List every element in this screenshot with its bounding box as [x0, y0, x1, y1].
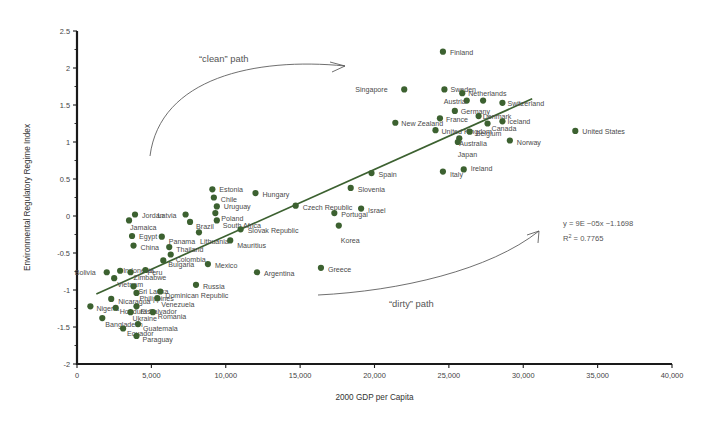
- scatter-point[interactable]: [166, 244, 172, 250]
- scatter-point[interactable]: [87, 303, 93, 309]
- scatter-point-label: Korea: [341, 237, 360, 245]
- scatter-point[interactable]: [254, 269, 260, 275]
- scatter-point[interactable]: [129, 233, 135, 239]
- scatter-point[interactable]: [331, 210, 337, 216]
- scatter-point-label: Italy: [450, 171, 463, 179]
- scatter-point[interactable]: [348, 185, 354, 191]
- scatter-point[interactable]: [252, 190, 258, 196]
- scatter-point[interactable]: [238, 226, 244, 232]
- scatter-point-label: Argentina: [264, 270, 294, 278]
- scatter-point[interactable]: [130, 243, 136, 249]
- scatter-point[interactable]: [507, 137, 513, 143]
- trendline-equation: y = 9E −05x −1.1698: [563, 219, 633, 228]
- scatter-point[interactable]: [455, 139, 461, 145]
- x-tick-label: 0: [75, 371, 79, 380]
- scatter-point[interactable]: [113, 305, 119, 311]
- scatter-point-label: Netherlands: [468, 90, 507, 98]
- scatter-point-label: Norway: [517, 139, 541, 147]
- scatter-point[interactable]: [392, 120, 398, 126]
- scatter-point[interactable]: [157, 288, 163, 294]
- scatter-point[interactable]: [227, 237, 233, 243]
- scatter-point[interactable]: [130, 283, 136, 289]
- scatter-point[interactable]: [440, 169, 446, 175]
- scatter-point-label: Hungary: [263, 191, 290, 199]
- scatter-point-label: Switzerland: [507, 100, 544, 108]
- scatter-point[interactable]: [214, 217, 220, 223]
- scatter-point[interactable]: [160, 257, 166, 263]
- scatter-point[interactable]: [318, 265, 324, 271]
- scatter-point[interactable]: [168, 251, 174, 257]
- scatter-point[interactable]: [126, 217, 132, 223]
- clean-path-curve: [150, 64, 345, 156]
- clean-path-arrowhead: [330, 62, 345, 72]
- chart-svg: 2.521.510.50-0.5-1-1.5-205,00010,00015,0…: [0, 0, 713, 423]
- scatter-point[interactable]: [484, 120, 490, 126]
- equation-group: y = 9E −05x −1.1698R2 = 0.7765: [563, 219, 633, 243]
- x-tick-label: 25,000: [438, 371, 461, 380]
- scatter-point-label: Peru: [147, 269, 162, 277]
- x-tick-label: 30,000: [512, 371, 535, 380]
- scatter-point-label: Estonia: [219, 186, 243, 194]
- scatter-point[interactable]: [159, 234, 165, 240]
- scatter-point[interactable]: [132, 211, 138, 217]
- y-tick-label: -1.5: [57, 323, 70, 332]
- y-tick-label: 1: [66, 138, 70, 147]
- scatter-point-label: Japan: [458, 151, 477, 159]
- scatter-point[interactable]: [476, 113, 482, 119]
- y-tick-label: 0: [66, 212, 70, 221]
- scatter-point[interactable]: [336, 223, 342, 229]
- scatter-point[interactable]: [133, 333, 139, 339]
- scatter-point-label: Dominican Republic: [165, 292, 229, 300]
- scatter-point-label: Thailand: [176, 246, 203, 254]
- scatter-point[interactable]: [209, 186, 215, 192]
- scatter-point-label: Lithuania: [200, 238, 229, 246]
- scatter-point[interactable]: [480, 97, 486, 103]
- scatter-point[interactable]: [440, 49, 446, 55]
- scatter-point[interactable]: [182, 211, 188, 217]
- scatter-point[interactable]: [205, 261, 211, 267]
- chart-figure: 2.521.510.50-0.5-1-1.5-205,00010,00015,0…: [0, 0, 713, 423]
- scatter-point[interactable]: [401, 86, 407, 92]
- scatter-point[interactable]: [150, 309, 156, 315]
- scatter-point-label: Ireland: [471, 165, 493, 173]
- scatter-point[interactable]: [133, 303, 139, 309]
- y-tick-label: 2: [66, 64, 70, 73]
- scatter-point[interactable]: [441, 86, 447, 92]
- y-tick-label: -2: [63, 360, 70, 369]
- scatter-point-label: Belgium: [476, 130, 502, 138]
- scatter-point[interactable]: [212, 210, 218, 216]
- dirty-path-label: “dirty” path: [389, 298, 434, 309]
- scatter-point-label: Egypt: [139, 233, 157, 241]
- scatter-point[interactable]: [459, 90, 465, 96]
- scatter-plot-canvas: 2.521.510.50-0.5-1-1.5-205,00010,00015,0…: [0, 0, 713, 423]
- scatter-point[interactable]: [120, 325, 126, 331]
- scatter-point-label: Finland: [450, 49, 473, 57]
- scatter-point[interactable]: [211, 194, 217, 200]
- scatter-point[interactable]: [214, 203, 220, 209]
- scatter-point[interactable]: [108, 296, 114, 302]
- scatter-point[interactable]: [499, 100, 505, 106]
- scatter-point[interactable]: [154, 295, 160, 301]
- scatter-point-label: Bulgaria: [168, 261, 194, 269]
- scatter-point-label: Singapore: [355, 86, 387, 94]
- scatter-point[interactable]: [135, 321, 141, 327]
- scatter-point[interactable]: [467, 129, 473, 135]
- scatter-point-label: Portugal: [341, 211, 368, 219]
- scatter-point[interactable]: [193, 282, 199, 288]
- trendline-r-squared: R2 = 0.7765: [563, 233, 603, 243]
- y-tick-label: 2.5: [60, 27, 70, 36]
- scatter-point[interactable]: [572, 128, 578, 134]
- scatter-point[interactable]: [196, 229, 202, 235]
- scatter-point-label: China: [141, 244, 160, 252]
- y-tick-label: 0.5: [60, 175, 70, 184]
- scatter-point[interactable]: [432, 127, 438, 133]
- scatter-point[interactable]: [187, 219, 193, 225]
- scatter-point[interactable]: [368, 170, 374, 176]
- x-tick-label: 15,000: [289, 371, 312, 380]
- scatter-point[interactable]: [452, 108, 458, 114]
- scatter-point[interactable]: [104, 269, 110, 275]
- scatter-point[interactable]: [293, 203, 299, 209]
- scatter-point-label: Jordan: [142, 212, 164, 220]
- scatter-point[interactable]: [499, 118, 505, 124]
- scatter-point-label: Paraguay: [143, 336, 174, 344]
